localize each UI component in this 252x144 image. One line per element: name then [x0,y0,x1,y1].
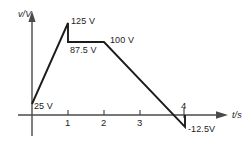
y-axis-label: v/V [18,9,31,19]
x-axis-ticks [68,108,184,118]
annotation-minimum-voltage: -12.5V [188,124,215,134]
y-axis [28,11,35,136]
graph-canvas [0,0,252,144]
x-tick-label-1: 1 [65,118,70,128]
annotation-peak-voltage: 125 V [71,16,95,26]
x-tick-label-3: 3 [137,118,142,128]
annotation-after-drop-voltage: 87.5 V [70,45,97,55]
waveform-trace [32,23,185,127]
annotation-plateau-voltage: 100 V [110,35,134,45]
x-axis [18,111,228,119]
voltage-time-graph: v/V t/s 1 2 3 4 25 V 125 V 87.5 V 100 V … [0,0,252,144]
x-axis-label: t/s [232,110,242,120]
annotation-start-voltage: 25 V [34,101,53,111]
x-tick-label-2: 2 [101,118,106,128]
x-marker-label-4: 4 [181,101,186,111]
